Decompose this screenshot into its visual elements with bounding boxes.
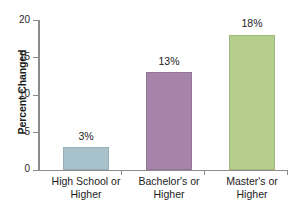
x-category-line-1: Bachelor's or	[123, 175, 215, 188]
x-category-line-1: High School or	[40, 175, 132, 188]
bar-value-label-masters: 18%	[229, 17, 275, 29]
bar-high-school	[63, 147, 109, 170]
bar-masters	[229, 35, 275, 170]
x-category-label-masters: Master's or Higher	[206, 175, 295, 200]
x-category-label-bachelors: Bachelor's or Higher	[123, 175, 215, 200]
y-tick-label-10: 10	[0, 88, 30, 99]
y-tick-label-15: 15	[0, 51, 30, 62]
x-category-line-2: Higher	[206, 188, 295, 201]
x-category-line-2: Higher	[123, 188, 215, 201]
bar-chart: Percent Changed 0 5 10 15 20 3% 13% 18% …	[0, 0, 295, 204]
bar-bachelors	[146, 72, 192, 170]
y-tick-label-0: 0	[0, 163, 30, 174]
y-tick-15	[33, 57, 38, 58]
y-axis-line	[38, 20, 40, 170]
x-category-line-2: Higher	[40, 188, 132, 201]
y-tick-label-20: 20	[0, 14, 30, 25]
bar-value-label-high-school: 3%	[63, 130, 109, 142]
y-tick-20	[33, 20, 38, 21]
x-axis-line	[38, 170, 288, 172]
x-category-line-1: Master's or	[206, 175, 295, 188]
y-tick-0	[33, 170, 38, 171]
y-tick-10	[33, 95, 38, 96]
y-tick-label-5: 5	[0, 126, 30, 137]
x-category-label-high-school: High School or Higher	[40, 175, 132, 200]
y-tick-5	[33, 132, 38, 133]
bar-value-label-bachelors: 13%	[146, 55, 192, 67]
